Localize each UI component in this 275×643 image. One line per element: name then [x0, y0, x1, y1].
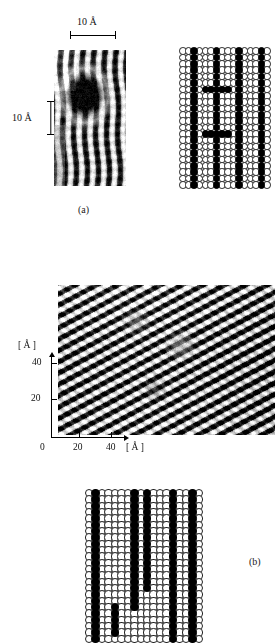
ball-filled — [188, 635, 196, 643]
ball-filled — [213, 181, 221, 189]
ball-filled — [111, 628, 119, 636]
x-axis-tick-label-0: 0 — [40, 442, 45, 452]
ball-filled — [258, 181, 266, 189]
ball-model-b — [86, 490, 202, 642]
x-axis-arrow — [124, 435, 129, 441]
scale-bar-horizontal-graphic-a — [70, 30, 116, 39]
stm-image-a — [54, 50, 126, 186]
ball-filled — [91, 635, 99, 643]
ball-model-a — [180, 48, 270, 188]
ball-filled — [224, 86, 232, 94]
ball-filled — [235, 181, 243, 189]
scale-bar-vertical-label-a: 10 Å — [12, 113, 32, 123]
ball-filled — [130, 603, 138, 611]
scale-bar-horizontal-a: 10 Å — [66, 17, 124, 39]
scale-bar-horizontal-label-a: 10 Å — [77, 17, 97, 27]
x-axis-tick-20 — [79, 432, 80, 437]
y-axis-tick-40 — [52, 363, 57, 364]
ball-filled — [169, 635, 177, 643]
scale-bar-line — [70, 35, 116, 36]
x-axis-tick-label-40: 40 — [106, 442, 116, 452]
ball-filled — [190, 181, 198, 189]
y-axis-unit-label: [ Å ] — [18, 340, 36, 350]
y-axis-tick-label-40: 40 — [32, 357, 42, 367]
scale-bar-cap-right — [115, 31, 116, 39]
x-axis-tick-label-20: 20 — [73, 442, 83, 452]
x-axis-unit-label: [ Å ] — [126, 442, 144, 452]
scale-bar-line — [50, 101, 51, 135]
y-axis-tick-label-20: 20 — [31, 393, 41, 403]
ball-filled — [224, 130, 232, 138]
y-axis-tick-20 — [52, 399, 57, 400]
scale-bar-cap-left — [70, 31, 71, 39]
y-axis-line — [51, 357, 52, 437]
panel-label-a: (a) — [78, 204, 89, 215]
panel-label-b: (b) — [249, 556, 261, 567]
x-axis-tick-40 — [111, 432, 112, 437]
stm-image-b — [58, 285, 275, 435]
y-axis-arrow — [49, 352, 55, 357]
x-axis-line — [51, 437, 126, 438]
